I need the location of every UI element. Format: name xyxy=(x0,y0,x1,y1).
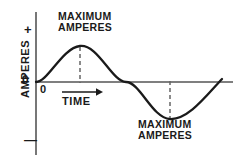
ac-sine-wave-figure: AMPERES + — 0 0 TIME MAXIMUM AMPERES MAX… xyxy=(0,0,239,162)
y-axis-minus-label: — xyxy=(24,133,37,147)
negative-peak-annotation: MAXIMUM AMPERES xyxy=(138,119,192,142)
x-axis-origin-label: 0 xyxy=(40,84,46,96)
y-axis-title: AMPERES xyxy=(20,29,32,109)
y-axis-zero-label: 0 xyxy=(22,74,29,87)
x-axis-title: TIME xyxy=(62,96,91,108)
y-axis-plus-label: + xyxy=(24,23,32,37)
positive-peak-annotation: MAXIMUM AMPERES xyxy=(58,11,112,34)
